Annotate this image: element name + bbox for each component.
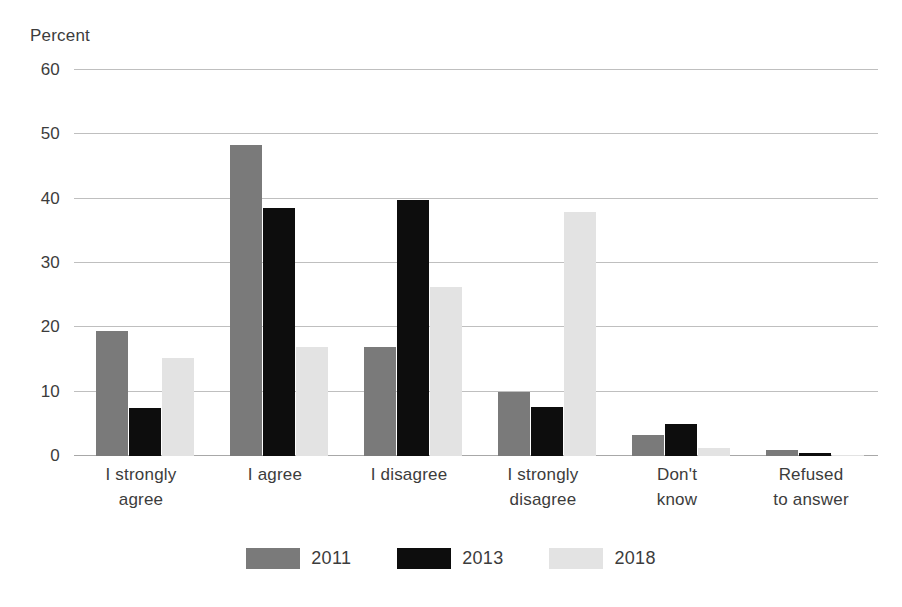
x-axis-label: Don'tknow: [610, 462, 744, 512]
y-axis-ticks: 0102030405060: [0, 70, 60, 456]
bar: [162, 358, 194, 456]
bar-group: [610, 70, 744, 456]
bar: [263, 208, 295, 456]
y-tick-label-60: 60: [16, 60, 60, 80]
bar: [832, 455, 864, 456]
bar: [799, 453, 831, 456]
y-tick-label-10: 10: [16, 382, 60, 402]
plot-area: [74, 70, 878, 456]
legend-swatch-2013: [397, 548, 451, 569]
bar: [632, 435, 664, 456]
x-axis-label-line: I strongly: [74, 462, 208, 487]
bar: [96, 331, 128, 456]
bar: [430, 287, 462, 456]
x-axis-label: I disagree: [342, 462, 476, 487]
x-axis-label-line: agree: [74, 487, 208, 512]
legend-label: 2011: [311, 548, 351, 569]
y-tick-label-20: 20: [16, 317, 60, 337]
x-axis-label: I stronglydisagree: [476, 462, 610, 512]
bar-chart: Percent 0102030405060 I stronglyagreeI a…: [0, 0, 902, 607]
x-axis-label-line: to answer: [744, 487, 878, 512]
y-tick-label-30: 30: [16, 253, 60, 273]
x-axis-label-line: I agree: [208, 462, 342, 487]
y-tick-label-0: 0: [16, 446, 60, 466]
x-axis-label-line: Don't: [610, 462, 744, 487]
bar: [296, 347, 328, 456]
bar-group: [208, 70, 342, 456]
bar: [397, 200, 429, 456]
legend-item-2013[interactable]: 2013: [397, 548, 503, 569]
x-axis-label-line: Refused: [744, 462, 878, 487]
bar: [766, 450, 798, 456]
bar-group: [476, 70, 610, 456]
x-axis-label: I agree: [208, 462, 342, 487]
legend-label: 2013: [462, 548, 503, 569]
bar: [665, 424, 697, 456]
bar: [230, 145, 262, 456]
legend-label: 2018: [614, 548, 655, 569]
x-axis-labels: I stronglyagreeI agreeI disagreeI strong…: [74, 462, 878, 524]
x-axis-label-line: I strongly: [476, 462, 610, 487]
bar-group: [342, 70, 476, 456]
bar: [564, 212, 596, 456]
bar-group: [74, 70, 208, 456]
bar: [129, 408, 161, 456]
x-axis-label-line: I disagree: [342, 462, 476, 487]
bar: [531, 407, 563, 456]
bar: [698, 448, 730, 456]
y-tick-label-40: 40: [16, 189, 60, 209]
bar: [498, 392, 530, 456]
y-tick-label-50: 50: [16, 124, 60, 144]
legend-swatch-2011: [246, 548, 300, 569]
legend-swatch-2018: [549, 548, 603, 569]
x-axis-label: I stronglyagree: [74, 462, 208, 512]
x-axis-label: Refusedto answer: [744, 462, 878, 512]
x-axis-label-line: know: [610, 487, 744, 512]
x-axis-label-line: disagree: [476, 487, 610, 512]
legend: 201120132018: [0, 548, 902, 569]
legend-item-2011[interactable]: 2011: [246, 548, 351, 569]
legend-item-2018[interactable]: 2018: [549, 548, 655, 569]
bar-group: [744, 70, 878, 456]
bar: [364, 347, 396, 456]
bars-layer: [74, 70, 878, 456]
y-axis-title: Percent: [30, 26, 90, 46]
